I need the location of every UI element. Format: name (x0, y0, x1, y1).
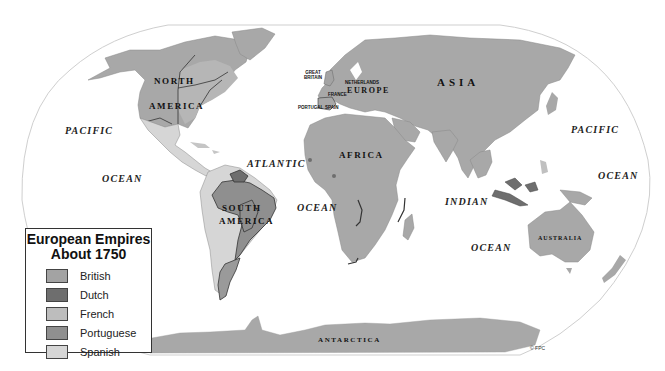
continent-label-africa: AFRICA (339, 150, 384, 160)
legend-label: British (80, 270, 111, 282)
continent-label-antarctica: ANTARCTICA (318, 336, 381, 344)
legend-item-portuguese: Portuguese (26, 323, 151, 342)
country-label-portugal: PORTUGAL (298, 105, 323, 110)
legend-label: Dutch (80, 289, 109, 301)
continent-label-asia: ASIA (437, 76, 479, 88)
ocean-label-ocean-east: OCEAN (598, 170, 638, 181)
ocean-label-pacific-west: PACIFIC (65, 125, 113, 136)
legend-item-french: French (26, 304, 151, 323)
continent-label-australia: AUSTRALIA (538, 235, 582, 241)
continent-label-south: SOUTH (222, 203, 262, 213)
legend-item-british: British (26, 266, 151, 285)
country-label-spain: SPAIN (325, 105, 338, 110)
ocean-label-ocean-atlantic: OCEAN (297, 202, 337, 213)
swatch-french (46, 307, 68, 321)
ocean-label-ocean-indian: OCEAN (471, 242, 511, 253)
swatch-british (46, 269, 68, 283)
west-africa-post (308, 158, 312, 162)
country-label-france: FRANCE (328, 92, 347, 97)
ocean-label-atlantic: ATLANTIC (247, 158, 306, 169)
legend-title-line1: European Empires (26, 232, 151, 247)
ocean-label-ocean-west: OCEAN (102, 173, 142, 184)
gold-coast-post (332, 174, 336, 178)
continent-label-america-n: AMERICA (149, 101, 204, 111)
swatch-spanish (46, 345, 68, 359)
legend-title-line2: About 1750 (26, 247, 151, 262)
country-label-netherlands: NETHERLANDS (345, 80, 379, 85)
legend-title: European Empires About 1750 (26, 232, 151, 262)
legend-label: French (80, 308, 114, 320)
continent-label-europe: EUROPE (347, 86, 390, 95)
legend: European Empires About 1750 British Dutc… (25, 228, 152, 353)
legend-item-dutch: Dutch (26, 285, 151, 304)
legend-item-spanish: Spanish (26, 342, 151, 361)
legend-label: Portuguese (80, 327, 136, 339)
ocean-label-pacific-east: PACIFIC (571, 124, 619, 135)
copyright-notice: © FPC (530, 345, 545, 351)
continent-label-america-s: AMERICA (219, 216, 274, 226)
ocean-label-indian: INDIAN (445, 196, 488, 207)
legend-items: British Dutch French Portuguese Spanish (26, 266, 151, 361)
swatch-portuguese (46, 326, 68, 340)
swatch-dutch (46, 288, 68, 302)
country-label-great-britain: GREAT BRITAIN (303, 70, 323, 80)
legend-label: Spanish (80, 346, 120, 358)
continent-label-north: NORTH (154, 76, 195, 86)
